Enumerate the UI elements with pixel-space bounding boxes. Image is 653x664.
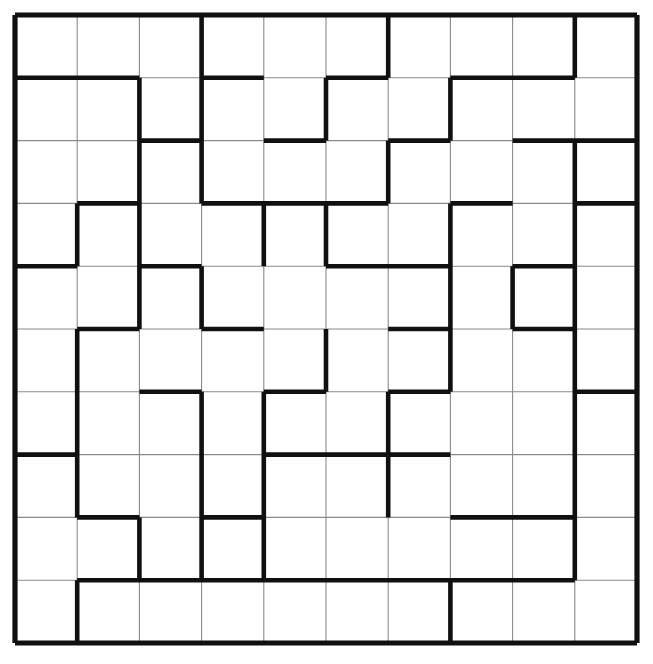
grid-cell[interactable] xyxy=(577,582,635,641)
grid-cell[interactable] xyxy=(141,80,199,139)
grid-cell[interactable] xyxy=(204,331,262,390)
grid-cell[interactable] xyxy=(204,394,262,453)
grid-cell[interactable] xyxy=(17,394,75,453)
grid-cell[interactable] xyxy=(17,582,75,641)
grid-cell[interactable] xyxy=(141,205,199,264)
grid-cell[interactable] xyxy=(204,205,262,264)
grid-cell[interactable] xyxy=(452,331,510,390)
grid-cell[interactable] xyxy=(204,17,262,76)
grid-cell[interactable] xyxy=(141,519,199,578)
grid-cell[interactable] xyxy=(515,143,573,202)
grid-cell[interactable] xyxy=(79,582,137,641)
grid-cell[interactable] xyxy=(141,582,199,641)
grid-cell[interactable] xyxy=(515,394,573,453)
grid-cell[interactable] xyxy=(328,331,386,390)
grid-cell[interactable] xyxy=(141,331,199,390)
grid-cell[interactable] xyxy=(577,143,635,202)
grid-cell[interactable] xyxy=(266,268,324,327)
grid-cell[interactable] xyxy=(390,143,448,202)
grid-cell[interactable] xyxy=(577,17,635,76)
grid-cell[interactable] xyxy=(79,205,137,264)
grid-cell[interactable] xyxy=(17,519,75,578)
grid-cell[interactable] xyxy=(328,17,386,76)
grid-cell[interactable] xyxy=(17,205,75,264)
grid-cell[interactable] xyxy=(577,331,635,390)
puzzle-grid[interactable] xyxy=(0,0,653,664)
grid-cell[interactable] xyxy=(452,519,510,578)
grid-cell[interactable] xyxy=(390,205,448,264)
grid-cell[interactable] xyxy=(266,143,324,202)
grid-cell[interactable] xyxy=(515,80,573,139)
grid-cell[interactable] xyxy=(204,582,262,641)
grid-cell[interactable] xyxy=(79,80,137,139)
grid-cell[interactable] xyxy=(17,17,75,76)
grid-cell[interactable] xyxy=(390,582,448,641)
grid-cell[interactable] xyxy=(17,457,75,516)
grid-cell[interactable] xyxy=(328,582,386,641)
grid-cell[interactable] xyxy=(204,80,262,139)
grid-cell[interactable] xyxy=(328,268,386,327)
grid-cell[interactable] xyxy=(204,519,262,578)
grid-cell[interactable] xyxy=(79,143,137,202)
grid-cell[interactable] xyxy=(515,268,573,327)
grid-cell[interactable] xyxy=(266,80,324,139)
grid-cell[interactable] xyxy=(515,582,573,641)
grid-cell[interactable] xyxy=(328,519,386,578)
grid-cell[interactable] xyxy=(17,143,75,202)
grid-cell[interactable] xyxy=(79,394,137,453)
grid-cell[interactable] xyxy=(452,143,510,202)
grid-cell[interactable] xyxy=(17,80,75,139)
grid-cell[interactable] xyxy=(577,205,635,264)
grid-cell[interactable] xyxy=(266,457,324,516)
grid-cell[interactable] xyxy=(577,80,635,139)
grid-cell[interactable] xyxy=(515,331,573,390)
grid-cell[interactable] xyxy=(141,17,199,76)
grid-cell[interactable] xyxy=(452,582,510,641)
grid-cell[interactable] xyxy=(390,80,448,139)
grid-cell[interactable] xyxy=(452,80,510,139)
grid-cell[interactable] xyxy=(266,331,324,390)
grid-cell[interactable] xyxy=(328,80,386,139)
grid-cell[interactable] xyxy=(79,519,137,578)
grid-cell[interactable] xyxy=(141,268,199,327)
grid-cell[interactable] xyxy=(328,205,386,264)
grid-cell[interactable] xyxy=(577,394,635,453)
grid-cell[interactable] xyxy=(328,457,386,516)
grid-cell[interactable] xyxy=(390,268,448,327)
grid-cell[interactable] xyxy=(577,519,635,578)
grid-cell[interactable] xyxy=(266,394,324,453)
grid-cell[interactable] xyxy=(266,17,324,76)
grid-cell[interactable] xyxy=(328,143,386,202)
grid-cell[interactable] xyxy=(79,331,137,390)
grid-cell[interactable] xyxy=(390,394,448,453)
grid-cell[interactable] xyxy=(79,457,137,516)
grid-cell[interactable] xyxy=(141,457,199,516)
grid-cell[interactable] xyxy=(204,457,262,516)
grid-cell[interactable] xyxy=(390,457,448,516)
grid-cell[interactable] xyxy=(515,205,573,264)
grid-cell[interactable] xyxy=(452,205,510,264)
grid-cell[interactable] xyxy=(452,457,510,516)
grid-cell[interactable] xyxy=(515,17,573,76)
grid-cell[interactable] xyxy=(328,394,386,453)
grid-cell[interactable] xyxy=(266,582,324,641)
grid-cell[interactable] xyxy=(452,268,510,327)
grid-cell[interactable] xyxy=(452,17,510,76)
grid-cell[interactable] xyxy=(79,268,137,327)
grid-cell[interactable] xyxy=(266,205,324,264)
grid-cell[interactable] xyxy=(17,268,75,327)
grid-cell[interactable] xyxy=(204,143,262,202)
grid-cell[interactable] xyxy=(515,457,573,516)
grid-cell[interactable] xyxy=(452,394,510,453)
grid-cell[interactable] xyxy=(204,268,262,327)
grid-cell[interactable] xyxy=(577,457,635,516)
grid-cell[interactable] xyxy=(141,143,199,202)
grid-cell[interactable] xyxy=(515,519,573,578)
grid-cell[interactable] xyxy=(266,519,324,578)
grid-cell[interactable] xyxy=(17,331,75,390)
grid-cell[interactable] xyxy=(577,268,635,327)
grid-cell[interactable] xyxy=(79,17,137,76)
grid-cell[interactable] xyxy=(390,519,448,578)
grid-cell[interactable] xyxy=(390,331,448,390)
grid-cell[interactable] xyxy=(390,17,448,76)
